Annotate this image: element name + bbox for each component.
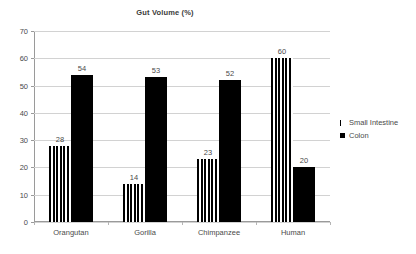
y-axis-tick-label: 10 [20, 190, 28, 199]
bar-value-label: 54 [78, 64, 86, 73]
y-axis-tick-label: 20 [20, 163, 28, 172]
bar-value-label: 28 [56, 135, 64, 144]
chart-legend: Small Intestine Colon [340, 116, 416, 142]
x-axis-label-chimpanzee: Chimpanzee [198, 228, 240, 237]
y-axis-tick-label: 70 [20, 27, 28, 36]
x-axis-tick [256, 222, 257, 225]
gut-volume-chart: Gut Volume (%) 010203040506070 285414532… [0, 0, 416, 254]
chart-title: Gut Volume (%) [0, 8, 330, 17]
bar-value-label: 20 [300, 156, 308, 165]
bar-value-label: 52 [226, 69, 234, 78]
legend-item-colon: Colon [340, 129, 416, 142]
legend-label-colon: Colon [349, 131, 369, 140]
bar-chimpanzee-small-intestine[interactable]: 23 [197, 159, 219, 222]
x-axis-tick [108, 222, 109, 225]
bar-human-colon[interactable]: 20 [293, 167, 315, 222]
legend-label-small-intestine: Small Intestine [349, 118, 398, 127]
bar-value-label: 53 [152, 66, 160, 75]
bar-group: 6020 [256, 31, 330, 222]
striped-bar-icon [340, 120, 349, 126]
plot-area: 010203040506070 2854145323526020 Orangut… [34, 31, 330, 222]
solid-square-icon [340, 133, 349, 138]
bar-group: 2352 [182, 31, 256, 222]
bar-value-label: 14 [130, 173, 138, 182]
x-axis-label-human: Human [281, 228, 305, 237]
y-axis-tick-label: 50 [20, 81, 28, 90]
x-axis-tick [330, 222, 331, 225]
bar-group: 1453 [108, 31, 182, 222]
x-axis-tick [182, 222, 183, 225]
bar-value-label: 60 [278, 47, 286, 56]
y-axis-tick-label: 60 [20, 54, 28, 63]
legend-item-small-intestine: Small Intestine [340, 116, 416, 129]
y-axis-tick-label: 40 [20, 108, 28, 117]
x-axis-label-gorilla: Gorilla [134, 228, 156, 237]
bar-gorilla-colon[interactable]: 53 [145, 77, 167, 222]
bar-value-label: 23 [204, 148, 212, 157]
x-axis-label-orangutan: Orangutan [53, 228, 88, 237]
bars-layer: 2854145323526020 [34, 31, 330, 222]
bar-chimpanzee-colon[interactable]: 52 [219, 80, 241, 222]
y-axis-tick-label: 0 [24, 218, 28, 227]
bar-human-small-intestine[interactable]: 60 [271, 58, 293, 222]
y-axis-tick-label: 30 [20, 136, 28, 145]
x-axis-tick [34, 222, 35, 225]
bar-group: 2854 [34, 31, 108, 222]
bar-gorilla-small-intestine[interactable]: 14 [123, 184, 145, 222]
bar-orangutan-colon[interactable]: 54 [71, 75, 93, 222]
bar-orangutan-small-intestine[interactable]: 28 [49, 146, 71, 222]
